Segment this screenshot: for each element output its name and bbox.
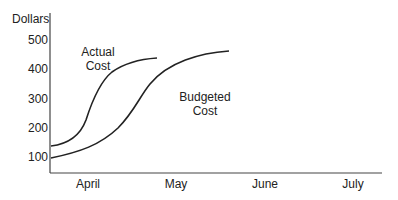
y-tick-300: 300 <box>28 92 48 106</box>
y-tick-100: 100 <box>28 150 48 164</box>
actual-cost-label-line2: Cost <box>81 59 114 73</box>
y-tick-400: 400 <box>28 62 48 76</box>
x-tick-july: July <box>342 177 363 191</box>
y-axis-label: Dollars <box>12 12 49 26</box>
y-tick-200: 200 <box>28 121 48 135</box>
y-tick-500: 500 <box>28 33 48 47</box>
budgeted-cost-label-line1: Budgeted <box>179 90 230 104</box>
x-tick-may: May <box>165 177 188 191</box>
budgeted-cost-label-line2: Cost <box>179 104 230 118</box>
actual-cost-annotation: Actual Cost <box>81 45 114 73</box>
actual-cost-label-line1: Actual <box>81 45 114 59</box>
x-tick-april: April <box>76 177 100 191</box>
budgeted-cost-annotation: Budgeted Cost <box>179 90 230 118</box>
x-tick-june: June <box>252 177 278 191</box>
